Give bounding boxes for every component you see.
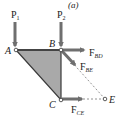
joint-B-pin: [59, 48, 63, 52]
force-label-F_BD: FBD: [89, 47, 103, 59]
joint-A-pin: [14, 48, 18, 52]
joint-label-A: A: [4, 45, 12, 56]
truss-section-triangle: [16, 50, 61, 100]
force-label-F_BE: FBE: [80, 61, 93, 73]
joint-label-B: B: [49, 38, 55, 49]
joint-E-pin: [103, 97, 107, 101]
free-body-diagram: (a) P1 P2 A B C E FBD FBE FCE: [0, 0, 118, 122]
load-label-P2: P2: [57, 9, 66, 21]
joint-label-E: E: [108, 94, 115, 105]
force-label-F_CE: FCE: [71, 104, 85, 116]
joint-label-C: C: [49, 99, 56, 110]
force-arrow-F_BE: [62, 51, 75, 65]
panel-label: (a): [68, 0, 79, 10]
load-label-P1: P1: [11, 9, 20, 21]
joint-C-pin: [59, 98, 63, 102]
